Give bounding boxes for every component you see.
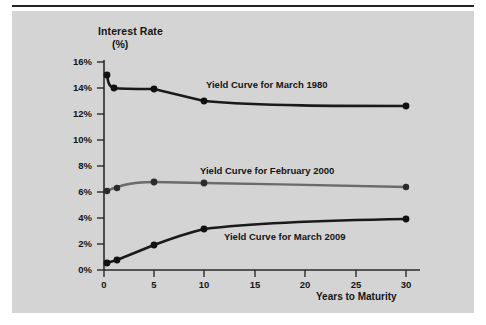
y-tick-label-14: 14% — [64, 82, 92, 93]
data-point — [403, 216, 410, 223]
data-point — [403, 103, 410, 110]
data-point — [111, 85, 118, 92]
y-axis-title-line1: Interest Rate — [98, 25, 163, 37]
series-line-february-2000 — [104, 179, 409, 195]
y-tick-label-6: 6% — [64, 186, 92, 197]
figure-container: Interest Rate (%) 16% 14% 12% 10% 8% 6% … — [0, 0, 486, 325]
data-point — [403, 184, 409, 190]
x-tick-label-5: 5 — [143, 279, 165, 290]
x-tick-label-0: 0 — [93, 279, 115, 290]
x-axis-title: Years to Maturity — [316, 291, 397, 302]
data-point — [201, 180, 208, 187]
data-point — [151, 179, 158, 186]
y-tick-label-4: 4% — [64, 212, 92, 223]
series-line-march-1980 — [104, 72, 410, 110]
x-tick-label-20: 20 — [294, 279, 316, 290]
x-tick-label-10: 10 — [193, 279, 215, 290]
y-tick-label-8: 8% — [64, 160, 92, 171]
x-tick-label-15: 15 — [244, 279, 266, 290]
data-point — [114, 257, 121, 264]
series-annotation-march-2009: Yield Curve for March 2009 — [224, 231, 346, 242]
x-tick-marks — [104, 270, 406, 277]
data-point — [104, 260, 111, 267]
series-annotation-march-1980: Yield Curve for March 1980 — [206, 79, 328, 90]
y-axis-title-line2: (%) — [112, 38, 128, 50]
y-tick-label-16: 16% — [64, 56, 92, 67]
data-point — [104, 188, 110, 194]
data-point — [151, 86, 158, 93]
data-point — [201, 226, 208, 233]
y-tick-label-12: 12% — [64, 108, 92, 119]
x-tick-label-30: 30 — [395, 279, 417, 290]
series-annotation-february-2000: Yield Curve for February 2000 — [200, 165, 334, 176]
data-point — [201, 98, 208, 105]
y-tick-label-2: 2% — [64, 238, 92, 249]
y-tick-label-10: 10% — [64, 134, 92, 145]
x-tick-label-25: 25 — [345, 279, 367, 290]
data-point — [114, 185, 120, 191]
data-point — [104, 72, 111, 79]
y-tick-marks — [97, 62, 104, 270]
y-tick-label-0: 0% — [64, 264, 92, 275]
data-point — [151, 242, 158, 249]
